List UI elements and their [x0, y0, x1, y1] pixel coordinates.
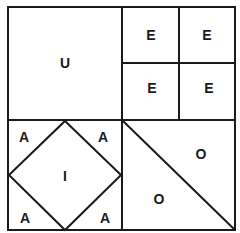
label-o-upper: O	[196, 147, 207, 161]
label-a-top-left: A	[19, 130, 29, 144]
label-e-3: E	[147, 81, 156, 95]
label-a-bottom-left: A	[20, 211, 30, 225]
label-e-2: E	[202, 28, 211, 42]
label-o-lower: O	[154, 192, 165, 206]
label-e-4: E	[204, 81, 213, 95]
label-a-bottom-right: A	[100, 211, 110, 225]
label-a-top-right: A	[98, 130, 108, 144]
diagonal	[123, 121, 235, 230]
label-u: U	[60, 56, 70, 70]
label-i: I	[63, 169, 67, 183]
label-e-1: E	[146, 28, 155, 42]
